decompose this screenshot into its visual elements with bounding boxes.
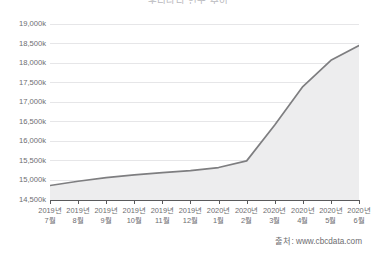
y-tick-label: 15,500k	[0, 157, 46, 165]
y-tick-label: 17,000k	[0, 98, 46, 106]
plot-svg	[50, 24, 359, 200]
x-tick	[106, 200, 107, 204]
x-tick	[359, 200, 360, 204]
x-tick	[190, 200, 191, 204]
x-tick	[247, 200, 248, 204]
y-tick-label: 16,000k	[0, 137, 46, 145]
plot-area	[50, 24, 359, 200]
x-tick	[219, 200, 220, 204]
x-tick	[78, 200, 79, 204]
y-tick-label: 16,500k	[0, 118, 46, 126]
y-tick-label: 18,500k	[0, 40, 46, 48]
x-tick	[50, 200, 51, 204]
chart-title: 우리나라 인구 추이	[0, 0, 376, 4]
y-tick-label: 15,000k	[0, 176, 46, 184]
x-tick	[275, 200, 276, 204]
y-axis: 14,500k15,000k15,500k16,000k16,500k17,00…	[0, 0, 46, 210]
y-tick-label: 14,500k	[0, 196, 46, 204]
area-fill	[50, 46, 359, 200]
line-chart: 우리나라 인구 추이 14,500k15,000k15,500k16,000k1…	[0, 0, 376, 256]
y-tick-label: 17,500k	[0, 79, 46, 87]
x-tick	[162, 200, 163, 204]
x-tick-label: 2020년6월	[341, 206, 376, 226]
y-tick-label: 18,000k	[0, 59, 46, 67]
x-tick	[134, 200, 135, 204]
y-tick-label: 19,000k	[0, 20, 46, 28]
x-tick	[331, 200, 332, 204]
x-axis-ticks	[50, 200, 359, 204]
x-axis-labels: 2019년7월2019년8월2019년9월2019년10월2019년11월201…	[0, 206, 376, 232]
x-tick	[303, 200, 304, 204]
source-note: 출처: www.cbcdata.com	[275, 234, 362, 246]
